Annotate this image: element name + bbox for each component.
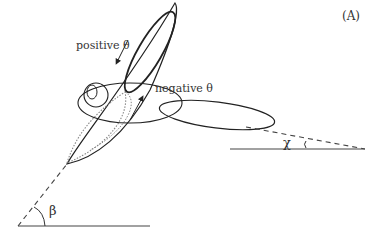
beta-label: β [49,203,57,218]
beta-angle-arc [34,207,45,226]
inner-body-dotted [67,92,126,163]
diagram-canvas: β χ positive θ negative θ (A) [0,0,381,246]
negative-theta-arrow [130,98,142,120]
chi-label: χ [283,135,291,150]
chi-angle-arc [305,141,307,148]
negative-theta-label: negative θ [155,82,213,95]
panel-label: (A) [342,9,360,23]
chi-axis-dashed [246,127,365,149]
positive-theta-label: positive θ [76,39,130,52]
left-circle-inner [87,85,97,99]
